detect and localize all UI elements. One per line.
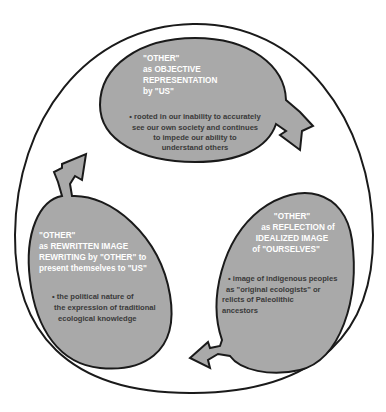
svg-text:as OBJECTIVE: as OBJECTIVE [143, 65, 201, 74]
svg-text:• image of indigenous peoples: • image of indigenous peoples [228, 274, 337, 283]
svg-text:• rooted in our inability to a: • rooted in our inability to accurately [129, 112, 261, 121]
cycle-diagram: "OTHER" as OBJECTIVE REPRESENTATION by "… [0, 0, 386, 412]
svg-text:• the political nature of: • the political nature of [52, 292, 134, 301]
svg-text:by "US": by "US" [143, 87, 174, 96]
svg-text:the expression of traditional: the expression of traditional [54, 303, 156, 312]
svg-text:as "original ecologists" or: as "original ecologists" or [226, 285, 321, 294]
svg-text:REWRITING by "OTHER" to: REWRITING by "OTHER" to [39, 253, 146, 262]
svg-text:see our own society and contin: see our own society and continues [132, 123, 258, 132]
svg-text:ecological knowledge: ecological knowledge [58, 314, 137, 323]
svg-text:understand others: understand others [162, 143, 229, 152]
svg-text:of "OURSELVES": of "OURSELVES" [252, 245, 320, 254]
svg-text:ancestors: ancestors [222, 306, 258, 315]
svg-text:"OTHER": "OTHER" [274, 212, 311, 221]
svg-text:as REFLECTION of: as REFLECTION of [261, 223, 335, 232]
svg-text:REPRESENTATION: REPRESENTATION [143, 76, 217, 85]
svg-text:to impede our ability to: to impede our ability to [153, 133, 237, 142]
svg-text:as REWRITTEN IMAGE: as REWRITTEN IMAGE [39, 242, 129, 251]
svg-text:relicts of Paleolithic: relicts of Paleolithic [222, 295, 294, 304]
svg-text:"OTHER": "OTHER" [39, 231, 76, 240]
svg-text:present themselves to "US": present themselves to "US" [39, 264, 147, 273]
svg-text:"OTHER": "OTHER" [143, 54, 180, 63]
svg-text:IDEALIZED IMAGE: IDEALIZED IMAGE [256, 234, 329, 243]
